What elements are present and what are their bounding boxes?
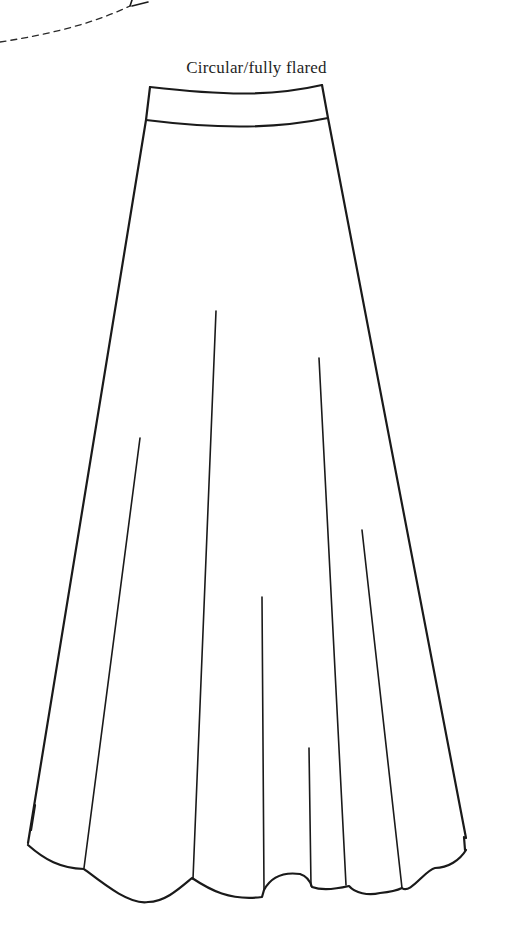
dashed-pattern-curve	[0, 0, 148, 42]
fold-line-5	[262, 597, 264, 890]
fold-line-3	[319, 358, 346, 885]
fold-line-1	[193, 311, 216, 879]
skirt-outline	[28, 118, 466, 850]
figure-canvas: Circular/fully flared	[0, 0, 513, 950]
skirt-drawing	[0, 0, 513, 950]
fold-line-6	[309, 748, 311, 886]
waistband	[146, 85, 328, 127]
fold-line-4	[362, 530, 402, 888]
fold-lines	[84, 311, 402, 890]
fold-line-2	[84, 438, 140, 868]
